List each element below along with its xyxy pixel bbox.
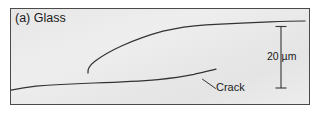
crack-annotation-label: Crack [216, 82, 245, 93]
figure-panel-glass: (a) Glass Crack 20 µm [0, 0, 320, 119]
panel-label: (a) Glass [15, 12, 66, 25]
scale-bar-label: 20 µm [267, 51, 296, 62]
